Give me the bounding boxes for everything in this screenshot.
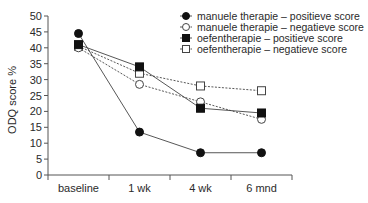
y-axis: 05101520253035404550 [30,10,48,181]
x-tick-label: baseline [58,182,99,194]
y-tick-label: 50 [30,10,42,22]
y-tick-label: 20 [30,105,42,117]
open-square-marker [183,46,190,53]
y-tick-label: 5 [36,153,42,165]
legend-item: oefentherapie – negatieve score [180,43,347,55]
y-tick-label: 10 [30,137,42,149]
filled-circle-marker [197,149,205,157]
x-axis: baseline1 wk4 wk6 mnd [48,175,292,194]
open-circle-marker [183,24,190,31]
filled-square-marker [75,41,83,49]
filled-square-marker [258,109,266,117]
series-1 [79,48,262,120]
y-tick-label: 45 [30,26,42,38]
y-axis-title: ODQ score % [6,66,18,134]
x-tick-label: 4 wk [189,182,212,194]
y-tick-label: 25 [30,90,42,102]
y-tick-label: 40 [30,42,42,54]
y-tick-label: 0 [36,169,42,181]
filled-circle-marker [183,13,190,20]
x-tick-label: 6 mnd [246,182,277,194]
x-tick-label: 1 wk [128,182,151,194]
filled-circle-marker [136,128,144,136]
filled-square-marker [197,104,205,112]
filled-circle-marker [75,29,83,37]
odq-score-chart: 05101520253035404550 baseline1 wk4 wk6 m… [0,0,368,203]
open-square-marker [197,82,205,90]
filled-circle-marker [258,149,266,157]
series-line [79,48,262,120]
legend-label: oefentherapie – negatieve score [197,43,347,55]
open-circle-marker [136,80,144,88]
y-tick-label: 15 [30,121,42,133]
filled-square-marker [183,35,190,42]
y-tick-label: 30 [30,74,42,86]
open-square-marker [258,87,266,95]
filled-square-marker [136,63,144,71]
chart-canvas: 05101520253035404550 baseline1 wk4 wk6 m… [0,0,368,203]
legend: manuele therapie – positieve scoremanuel… [180,10,364,55]
y-tick-label: 35 [30,58,42,70]
